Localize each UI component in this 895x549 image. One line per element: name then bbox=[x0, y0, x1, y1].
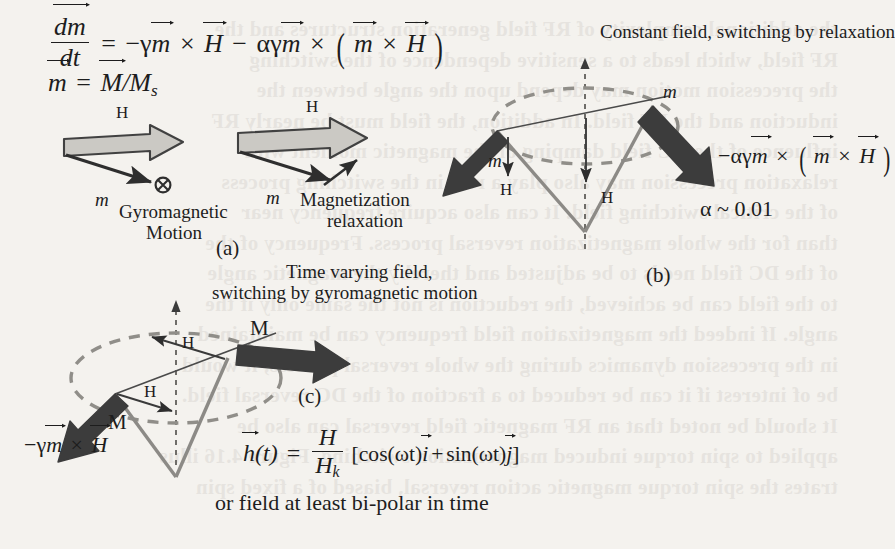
mdef-equals: = bbox=[73, 68, 94, 97]
llg-cross2: × bbox=[307, 29, 328, 58]
llg-m3: m bbox=[354, 29, 373, 59]
panel-c-magnetization-label-top: M bbox=[250, 318, 269, 339]
panel-c-field-label-upper: H bbox=[182, 334, 194, 351]
mdef-Ms-sub: s bbox=[151, 81, 158, 100]
damping-cross1: × bbox=[773, 143, 791, 168]
panel-b-alpha-note: α ~ 0.01 bbox=[700, 198, 773, 220]
panel-b-label: (b) bbox=[646, 265, 671, 286]
panel-c-label: (c) bbox=[298, 386, 321, 407]
equation-damping-term: −αγm × ( m × H ) bbox=[718, 140, 892, 178]
panel-b-moment-label-left: m bbox=[488, 151, 502, 170]
equation-field-time: h(t) = H Hk [cos(ωt)i+sin(ωt)j] bbox=[243, 424, 519, 481]
ht-fraction: H Hk bbox=[312, 424, 342, 481]
panel-a-left-field-label: H bbox=[116, 104, 128, 121]
panel-c-magnetization-label-left: M bbox=[108, 412, 127, 433]
panel-b-moment-label-top: m bbox=[663, 82, 677, 101]
damping-cross2: × bbox=[835, 143, 853, 168]
llg-paren-open: ( bbox=[337, 24, 345, 71]
damping-inner-m: m bbox=[814, 143, 830, 169]
panel-a-label: (a) bbox=[216, 238, 239, 259]
panel-b-heading: Constant field, switching by relaxation bbox=[600, 22, 895, 41]
llg-cross1: × bbox=[177, 29, 198, 58]
ht-equals: = bbox=[284, 440, 304, 466]
ht-sin: sin(ωt) bbox=[446, 442, 506, 466]
llg-H2: H bbox=[406, 29, 425, 59]
llg-cross3: × bbox=[379, 29, 400, 58]
mdef-m: m bbox=[48, 68, 67, 98]
ht-plus: + bbox=[428, 442, 446, 466]
panel-c-field-label-lower: H bbox=[144, 383, 156, 400]
ht-of-t: (t) bbox=[255, 440, 278, 466]
equation-precession-term: −γm × H bbox=[24, 432, 107, 458]
panel-a-left-moment-label: m bbox=[95, 190, 109, 209]
panel-b-field-label-center: H bbox=[601, 189, 613, 206]
llg-H1: H bbox=[204, 29, 223, 59]
panel-b-field-label-left: H bbox=[500, 181, 512, 198]
panel-c-footer: or field at least bi-polar in time bbox=[215, 492, 489, 514]
damping-paren-open: ( bbox=[799, 140, 806, 178]
damping-coeff: −αγ bbox=[718, 143, 752, 168]
damping-m: m bbox=[752, 143, 768, 169]
llg-m1: m bbox=[152, 29, 171, 59]
llg-gamma-coeff: −γ bbox=[125, 29, 151, 58]
panel-c-heading-line1: Time varying field, bbox=[286, 262, 433, 281]
ht-i: i bbox=[422, 442, 428, 467]
panel-c-heading-line2: switching by gyromagnetic motion bbox=[212, 283, 477, 302]
equation-llg: dm dt = −γm × H − αγm × ( m × H ) bbox=[48, 12, 445, 73]
ht-cos: cos(ωt) bbox=[359, 442, 422, 466]
panel-a-right-caption-line2: relaxation bbox=[327, 211, 403, 230]
mdef-Ms: M bbox=[129, 68, 151, 97]
mdef-M: M bbox=[100, 68, 122, 98]
panel-a-left-caption-line2: Motion bbox=[146, 223, 202, 242]
precession-H: H bbox=[91, 432, 107, 458]
ht-bracket-close: ] bbox=[512, 442, 519, 466]
equation-m-definition: m = M/Ms bbox=[48, 68, 158, 101]
ht-bracket-open: [ bbox=[352, 442, 359, 466]
precession-cross: × bbox=[68, 432, 86, 457]
ht-j: j bbox=[506, 442, 512, 467]
panel-a-right-caption-line1: Magnetization bbox=[300, 190, 410, 209]
damping-paren-close: ) bbox=[883, 140, 890, 178]
llg-alpha-gamma: αγ bbox=[257, 29, 282, 58]
llg-paren-close: ) bbox=[434, 24, 442, 71]
precession-coeff: −γ bbox=[24, 432, 46, 457]
panel-a-right-field-label: H bbox=[306, 98, 318, 115]
llg-m2: m bbox=[282, 29, 301, 59]
ht-h: h bbox=[243, 440, 255, 467]
panel-a-left-caption-line1: Gyromagnetic bbox=[119, 202, 228, 221]
panel-a-right-moment-label: m bbox=[266, 188, 280, 207]
precession-m: m bbox=[46, 432, 62, 458]
llg-derivative-fraction: dm dt bbox=[51, 12, 89, 73]
damping-inner-H: H bbox=[859, 143, 875, 169]
llg-minus: − bbox=[229, 29, 250, 58]
llg-equals: = bbox=[98, 29, 119, 58]
